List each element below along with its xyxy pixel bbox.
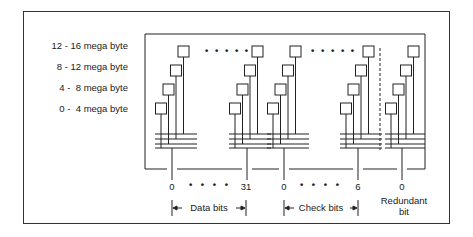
stack-redundant-bit-0 bbox=[385, 46, 425, 180]
stack-check-bit-0 bbox=[267, 46, 309, 180]
bit-number-data-start: 0 bbox=[169, 181, 174, 192]
bit-number-data-end: 31 bbox=[241, 181, 252, 192]
bit-number-check-start: 0 bbox=[281, 181, 286, 192]
stack-data-bit-0 bbox=[155, 46, 197, 180]
bit-ellipsis-check: • • • • bbox=[300, 179, 342, 190]
label-data-bits: Data bits bbox=[190, 202, 228, 213]
label-check-bits: Check bits bbox=[299, 202, 343, 213]
label-redundant-bit: Redundant bit bbox=[374, 195, 434, 217]
label-redundant-line2: bit bbox=[374, 206, 434, 217]
stack-check-bit-6 bbox=[340, 46, 382, 180]
bit-number-redundant: 0 bbox=[399, 181, 404, 192]
ellipsis-data: • • • • • bbox=[205, 45, 250, 56]
bit-ellipsis-data: • • • • bbox=[189, 179, 231, 190]
bit-number-check-end: 6 bbox=[355, 181, 360, 192]
ellipsis-check: • • • • • bbox=[311, 45, 356, 56]
label-redundant-line1: Redundant bbox=[374, 195, 434, 206]
stack-data-bit-31 bbox=[229, 46, 271, 180]
